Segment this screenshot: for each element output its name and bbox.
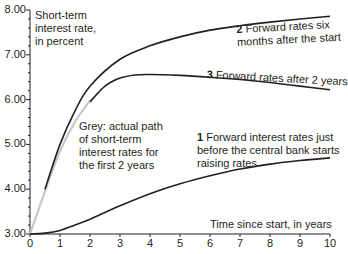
y-tick-label: 4.00	[0, 182, 26, 194]
series-2-number: 2	[236, 23, 243, 35]
x-tick-label: 9	[292, 237, 308, 249]
x-tick-label: 5	[172, 237, 188, 249]
grey-annotation: Grey: actual path of short-term interest…	[79, 120, 163, 172]
x-tick-label: 3	[112, 237, 128, 249]
x-tick-label: 7	[232, 237, 248, 249]
x-tick-label: 10	[322, 237, 338, 249]
x-tick-label: 6	[202, 237, 218, 249]
y-tick-label: 8.00	[0, 3, 26, 15]
series-1-number: 1	[197, 131, 203, 143]
series-2-label: 2 Forward rates six months after the sta…	[236, 18, 341, 49]
y-tick-label: 7.00	[0, 48, 26, 60]
x-tick-label: 1	[52, 237, 68, 249]
x-tick-label: 0	[22, 237, 38, 249]
y-tick-label: 5.00	[0, 137, 26, 149]
y-tick-label: 6.00	[0, 93, 26, 105]
series-1-label: 1 Forward interest rates just before the…	[197, 131, 339, 170]
x-tick-label: 4	[142, 237, 158, 249]
y-axis-label: Short-term interest rate, in percent	[35, 9, 96, 48]
x-tick-label: 8	[262, 237, 278, 249]
x-axis-label: Time since start, in years	[210, 218, 332, 231]
x-tick-label: 2	[82, 237, 98, 249]
series-lines	[30, 16, 330, 234]
series-3-number: 3	[206, 68, 213, 80]
